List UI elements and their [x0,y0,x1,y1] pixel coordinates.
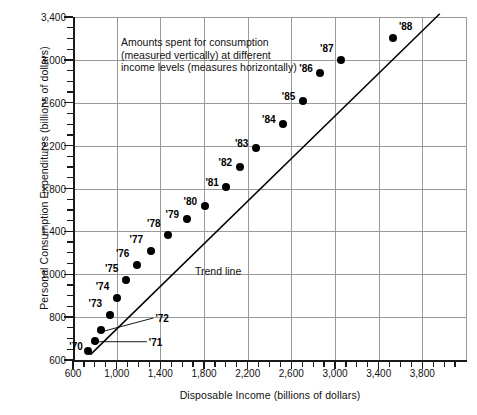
data-point-label: '71 [149,337,163,348]
data-point [299,97,307,105]
y-axis-tick [64,188,73,189]
x-axis-minor-tick [454,361,455,367]
data-point-label: '76 [116,248,130,259]
x-axis-minor-tick [149,361,150,367]
x-axis-minor-tick [182,361,183,367]
x-axis-minor-tick [83,361,84,367]
data-point-label: '73 [89,298,103,309]
data-point [106,311,114,319]
data-point [133,261,141,269]
x-axis-title: Disposable Income (billions of dollars) [73,389,467,401]
x-axis-minor-tick [171,361,172,367]
x-axis-tick-labels: 6001,0001,4001,8002,2002,6003,0003,4003,… [0,368,477,384]
x-axis-minor-tick [356,361,357,367]
x-axis-minor-tick [105,361,106,367]
y-axis-tick-label: 800 [22,312,66,323]
data-point-label: '77 [130,234,144,245]
leader-line [104,318,153,331]
data-point [316,69,324,77]
y-axis-tick-label: 3,000 [22,54,66,65]
x-axis-minor-tick [400,361,401,367]
y-axis-tick-label: 1,000 [22,269,66,280]
data-point-label: '81 [205,177,219,188]
data-point [183,215,191,223]
data-point-label: '86 [299,63,313,74]
y-axis-tick [64,59,73,60]
data-point-label: '83 [235,138,249,149]
y-axis-tick [64,16,73,17]
y-axis-tick-label: 2,200 [22,140,66,151]
x-axis-minor-tick [411,361,412,367]
data-point-label: '82 [219,157,233,168]
y-axis-tick [64,145,73,146]
axis-line-right [466,17,467,361]
y-axis-tick [64,316,73,317]
x-axis-minor-tick [214,361,215,367]
data-point [113,294,121,302]
data-point [252,144,260,152]
data-point-label: '75 [105,263,119,274]
data-point [91,337,99,345]
data-point [164,231,172,239]
data-point-label: '80 [184,196,198,207]
x-axis-minor-tick [192,361,193,367]
plot-area: '70'71'72'73'74'75'76'77'78'79'80'81'82'… [73,17,466,360]
y-axis-tick-label: 1,800 [22,183,66,194]
data-point [389,34,397,42]
y-axis-tick-label: 3,400 [22,12,66,23]
x-axis-minor-tick [345,361,346,367]
data-point-label: '85 [282,91,296,102]
data-point-label: '72 [155,313,169,324]
x-axis-minor-tick [127,361,128,367]
x-axis-minor-tick [323,361,324,367]
data-point-label: '70 [69,341,83,352]
data-point-label: '88 [399,21,413,32]
data-point [122,276,130,284]
x-axis-minor-tick [389,361,390,367]
x-axis-minor-tick [258,361,259,367]
data-point-label: '79 [166,209,180,220]
chart-figure: Personal Consumption Expenditures (billi… [0,0,477,415]
x-axis-minor-tick [313,361,314,367]
x-axis-minor-tick [302,361,303,367]
data-point [147,247,155,255]
data-point-label: '87 [320,43,334,54]
y-axis-tick-label: 1,400 [22,226,66,237]
x-axis-minor-tick [280,361,281,367]
data-point [337,56,345,64]
chart-annotation: Amounts spent for consumption (measured … [121,36,297,74]
y-axis-tick [64,102,73,103]
x-axis-minor-tick [94,361,95,367]
data-point-label: '84 [262,114,276,125]
y-axis-tick-label: 2,600 [22,97,66,108]
data-point [201,202,209,210]
x-axis-minor-tick [367,361,368,367]
x-axis-minor-tick [444,361,445,367]
y-axis-tick-label: 600 [22,355,66,366]
x-axis-minor-tick [433,361,434,367]
x-axis-tick-label: 3,800 [392,368,452,379]
data-point-label: '78 [147,218,161,229]
axis-line-bottom [73,360,467,362]
data-point-label: '74 [96,281,110,292]
data-point [236,163,244,171]
y-axis-tick [64,231,73,232]
x-axis-minor-tick [236,361,237,367]
trend-line-label: Trend line [195,265,241,277]
x-axis-minor-tick [225,361,226,367]
x-axis-minor-tick [269,361,270,367]
y-axis-tick-labels: 6008001,0001,4001,8002,2002,6003,0003,40… [14,0,66,415]
x-axis-minor-tick [138,361,139,367]
y-axis-tick [64,274,73,275]
